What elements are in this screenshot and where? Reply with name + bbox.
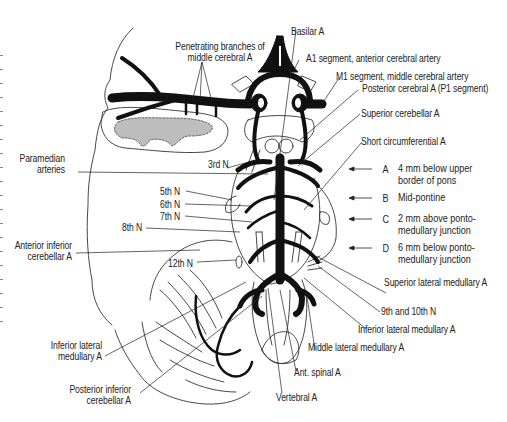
label-line: cerebellar A: [18, 395, 131, 406]
section-level-arrows: [349, 167, 372, 250]
label-line: Anterior inferior: [10, 240, 72, 251]
vertebral-artery-right: [284, 276, 302, 314]
cerebellar-hemisphere: [150, 240, 232, 300]
label-5th-n: 5th N: [160, 186, 180, 197]
label-8th-n: 8th N: [122, 222, 142, 233]
section-level-b-text: Mid-pontine: [398, 192, 445, 204]
label-line: middle cerebral A: [167, 52, 274, 63]
label-superior-cerebellar-a: Superior cerebellar A: [361, 108, 440, 119]
label-7th-n: 7th N: [160, 211, 180, 222]
middle-cerebral-artery: [112, 97, 250, 105]
label-line: Posterior inferior: [18, 384, 131, 395]
label-basilar-a: Basilar A: [291, 26, 324, 37]
label-superior-lateral-medullary-a: Superior lateral medullary A: [384, 277, 487, 288]
label-12th-n: 12th N: [168, 258, 193, 269]
label-6th-n: 6th N: [160, 199, 180, 210]
label-posterior-inferior-cerebellar-a: Posterior inferior cerebellar A: [18, 384, 131, 406]
section-level-a-text: 4 mm below upper border of pons: [398, 163, 472, 186]
section-level-d-letter: D: [383, 242, 390, 254]
label-middle-lateral-medullary-a: Middle lateral medullary A: [308, 342, 404, 353]
section-level-c-letter: C: [383, 213, 390, 225]
label-line: arteries: [9, 164, 65, 175]
label-vertebral-a: Vertebral A: [276, 392, 317, 403]
label-line: Penetrating branches of: [167, 41, 274, 52]
label-anterior-inferior-cerebellar-a: Anterior inferior cerebellar A: [10, 240, 72, 262]
label-short-circumferential-a: Short circumferential A: [361, 136, 446, 147]
section-level-c-text: 2 mm above ponto- medullary junction: [398, 213, 476, 236]
label-inferior-lateral-medullary-a-right: Inferior lateral medullary A: [358, 324, 456, 335]
gray-matter-region: [115, 118, 213, 146]
section-level-a-letter: A: [382, 163, 388, 175]
label-inferior-lateral-medullary-a-left: Inferior lateral medullary A: [14, 340, 102, 362]
section-level-d-text: 6 mm below ponto- medullary junction: [398, 242, 475, 265]
label-posterior-cerebral-a: Posterior cerebral A (P1 segment): [362, 83, 488, 94]
pica: [217, 306, 252, 376]
label-penetrating-branches: Penetrating branches of middle cerebral …: [167, 41, 274, 63]
label-3rd-n: 3rd N: [208, 159, 229, 170]
brainstem-arterial-diagram: Penetrating branches of middle cerebral …: [0, 0, 507, 422]
label-line: medullary A: [14, 351, 102, 362]
label-line: Inferior lateral: [14, 340, 102, 351]
label-line: cerebellar A: [10, 251, 72, 262]
section-level-b-letter: B: [382, 192, 388, 204]
label-ant-spinal-a: Ant. spinal A: [294, 367, 341, 378]
label-paramedian-arteries: Paramedian arteries: [9, 153, 65, 175]
label-a1-segment: A1 segment, anterior cerebral artery: [306, 53, 441, 64]
label-m1-segment: M1 segment, middle cerebral artery: [336, 71, 468, 82]
hemisphere-outline: [87, 28, 133, 325]
label-line: Paramedian: [9, 153, 65, 164]
label-9th-and-10th-n: 9th and 10th N: [381, 306, 436, 317]
